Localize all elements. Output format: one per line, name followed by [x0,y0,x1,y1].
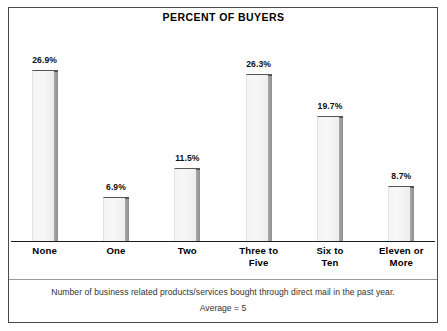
bar[interactable] [388,186,414,241]
footer-average: Average = 5 [9,302,437,315]
bar-shadow-edge [125,198,129,241]
bar-value-label: 26.9% [32,55,57,65]
bar[interactable] [103,197,129,241]
chart-title: PERCENT OF BUYERS [0,11,447,23]
bar-value-label: 11.5% [175,153,199,163]
bar-shadow-edge [268,75,272,241]
footer-note: Number of business related products/serv… [9,286,437,299]
x-axis-label: None [9,245,80,257]
bar-shadow-edge [196,169,200,241]
footer-divider [9,279,437,280]
bar[interactable] [174,168,200,241]
bar-column[interactable]: 6.9% [103,31,129,241]
bar-column[interactable]: 26.3% [246,31,272,241]
bar[interactable] [317,116,343,241]
bar-value-label: 6.9% [106,182,126,192]
bar[interactable] [246,74,272,241]
x-axis-label: Two [152,245,223,257]
chart-figure: PERCENT OF BUYERS 26.9%6.9%11.5%26.3%19.… [0,0,447,331]
bar-column[interactable]: 26.9% [32,31,58,241]
bar-value-label: 8.7% [391,171,411,181]
bar[interactable] [32,70,58,241]
bar-column[interactable]: 11.5% [174,31,200,241]
bar-shadow-edge [410,187,414,241]
x-axis-label: Three toFive [223,245,294,268]
bar-column[interactable]: 19.7% [317,31,343,241]
x-axis-tick-labels: NoneOneTwoThree toFiveSix toTenEleven or… [9,245,437,275]
bar-series: 26.9%6.9%11.5%26.3%19.7%8.7% [9,31,437,241]
x-axis-line [11,241,435,242]
bar-shadow-edge [54,71,58,241]
x-axis-label: Six toTen [294,245,365,268]
chart-footer: Number of business related products/serv… [9,286,437,315]
x-axis-label: Eleven orMore [366,245,437,268]
bar-value-label: 26.3% [246,59,271,69]
bar-value-label: 19.7% [318,101,343,111]
x-axis-label: One [80,245,151,257]
bar-shadow-edge [339,117,343,241]
bar-column[interactable]: 8.7% [388,31,414,241]
